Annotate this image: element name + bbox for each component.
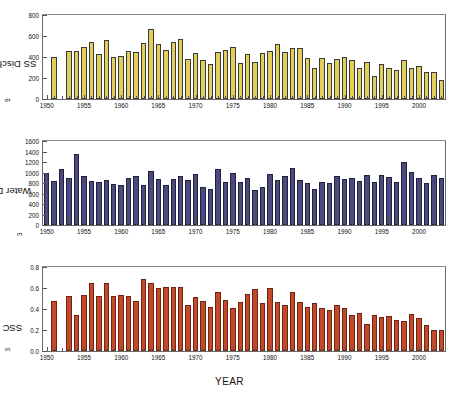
x-tick-ssc: [77, 348, 78, 351]
x-tick-wd: [397, 222, 398, 225]
x-tick-wd: [300, 222, 301, 225]
x-tick-wd: [337, 222, 338, 225]
x-tick-wd: [233, 221, 234, 226]
y-tick-label-wd: 400: [28, 201, 39, 208]
x-tick-ssc: [315, 348, 316, 351]
bar-ss-1953: [66, 51, 71, 99]
bar-ss-1976: [238, 63, 243, 99]
x-tick-wd: [330, 222, 331, 225]
x-tick-ssc: [367, 348, 368, 351]
bar-ss-1955: [81, 47, 86, 99]
x-tick-ssc: [426, 348, 427, 351]
bar-ss-1983: [290, 48, 295, 99]
x-tick-ssc: [144, 348, 145, 351]
bar-wd-1957: [96, 182, 101, 225]
bar-ss-1977: [245, 54, 250, 99]
x-tick-ss: [129, 96, 130, 99]
x-tick-wd: [62, 222, 63, 225]
bar-ss-1954: [74, 51, 79, 99]
x-tick-ss: [69, 96, 70, 99]
panel-ssc: SSC (kg/m3) 0.00.20.40.60.8 195019551960…: [0, 256, 459, 400]
x-tick-ss: [434, 96, 435, 99]
x-tick-wd: [367, 222, 368, 225]
x-tick-label-ss: 1970: [189, 102, 203, 109]
x-tick-label-ssc: 1980: [263, 354, 277, 361]
x-tick-ssc: [62, 348, 63, 351]
x-tick-ss: [359, 96, 360, 99]
x-tick-label-ssc: 1990: [337, 354, 351, 361]
bar-ss-1975: [230, 47, 235, 99]
x-tick-ssc: [84, 347, 85, 352]
x-tick-ss: [389, 96, 390, 99]
x-tick-ss: [382, 95, 383, 100]
bar-ss-1993: [364, 62, 369, 99]
bar-ss-1968: [178, 39, 183, 99]
bar-ss-1973: [215, 52, 220, 99]
bar-ssc-1958: [104, 283, 109, 351]
bar-ssc-1956: [89, 283, 94, 351]
x-axis-tick-labels-wd: 1950195519601965197019751980198519901995…: [0, 228, 459, 238]
bar-ssc-1960: [118, 295, 123, 351]
bar-ssc-1977: [245, 294, 250, 351]
three-panel-bar-figure: SS Discharge (109kg) 0200400600800 19501…: [0, 0, 459, 400]
bar-ss-1998: [401, 60, 406, 99]
bar-wd-1998: [401, 162, 406, 225]
bar-wd-1967: [171, 179, 176, 225]
bar-ss-1961: [126, 51, 131, 100]
x-tick-label-ssc: 2000: [412, 354, 426, 361]
x-tick-ssc: [91, 348, 92, 351]
x-tick-ss: [99, 96, 100, 99]
x-tick-wd: [218, 222, 219, 225]
bar-series-ssc: [43, 267, 445, 351]
x-tick-ss: [278, 96, 279, 99]
y-tick-wd: [43, 152, 47, 153]
panel-water-discharge: Water Discharge (108m3) 0200400600800100…: [0, 128, 459, 256]
x-tick-ss: [270, 95, 271, 100]
x-tick-ssc: [114, 348, 115, 351]
x-tick-wd: [270, 221, 271, 226]
x-tick-label-ss: 1995: [375, 102, 389, 109]
bar-wd-1996: [386, 177, 391, 225]
x-tick-ss: [91, 96, 92, 99]
x-tick-ssc: [330, 348, 331, 351]
x-tick-wd: [114, 222, 115, 225]
bar-wd-1950: [44, 173, 49, 225]
x-tick-label-wd: 1955: [77, 228, 91, 235]
x-tick-ssc: [203, 348, 204, 351]
x-tick-wd: [374, 222, 375, 225]
bar-ss-1960: [118, 56, 123, 99]
y-tick-ssc: [43, 351, 47, 352]
bar-ss-1997: [394, 70, 399, 99]
bar-wd-1992: [357, 181, 362, 225]
plot-area-ss-discharge: [42, 14, 446, 100]
x-tick-wd: [225, 222, 226, 225]
x-tick-ssc: [270, 347, 271, 352]
bar-ssc-1970: [193, 297, 198, 351]
x-tick-ssc: [285, 348, 286, 351]
x-tick-wd: [263, 222, 264, 225]
x-tick-ss: [225, 96, 226, 99]
x-tick-ssc: [129, 348, 130, 351]
bar-ssc-1951: [51, 301, 56, 351]
y-tick-label-ss: 400: [28, 54, 39, 61]
bar-wd-1977: [245, 178, 250, 225]
x-tick-wd: [434, 222, 435, 225]
x-tick-label-ss: 2000: [412, 102, 426, 109]
bar-wd-1989: [334, 176, 339, 225]
bar-wd-1953: [66, 178, 71, 225]
y-tick-wd: [43, 183, 47, 184]
x-tick-ss: [240, 96, 241, 99]
x-tick-ss: [263, 96, 264, 99]
x-tick-ss: [419, 95, 420, 100]
x-tick-label-ssc: 1965: [151, 354, 165, 361]
bar-ssc-1989: [334, 305, 339, 351]
bar-ss-1978: [252, 62, 257, 99]
bar-ssc-1971: [200, 301, 205, 351]
bar-ssc-1969: [185, 305, 190, 351]
x-tick-wd: [166, 222, 167, 225]
bar-ss-1962: [133, 52, 138, 99]
bar-ssc-1965: [156, 288, 161, 351]
bar-ssc-1978: [252, 289, 257, 351]
bar-ss-1967: [171, 42, 176, 99]
x-tick-ss: [77, 96, 78, 99]
